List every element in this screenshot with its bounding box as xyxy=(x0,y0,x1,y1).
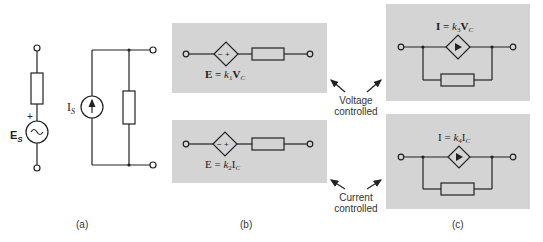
is-label: IS xyxy=(67,100,75,116)
arrow-right-icon xyxy=(367,180,381,189)
vccs-panel: I = k3VC xyxy=(386,4,530,101)
cccs-panel: I = k4IC xyxy=(386,114,530,209)
caption-b: (b) xyxy=(240,219,252,230)
svg-text:Current: Current xyxy=(339,192,373,203)
es-label: ES xyxy=(10,129,23,144)
current-source-circuit: IS xyxy=(67,47,156,168)
svg-text:− +: − + xyxy=(217,140,229,149)
svg-text:controlled: controlled xyxy=(334,106,377,117)
arrow-left-icon xyxy=(331,180,345,189)
arrow-left-icon xyxy=(331,80,345,92)
sine-wave-icon xyxy=(31,130,43,135)
voltage-controlled-annotation: Voltage controlled xyxy=(331,80,381,117)
arrow-right-icon xyxy=(367,80,381,92)
svg-text:Voltage: Voltage xyxy=(339,95,373,106)
voltage-source-circuit: + ES xyxy=(10,45,48,171)
vccs-equation: I = k3VC xyxy=(436,20,473,34)
terminal-top xyxy=(34,45,40,51)
current-controlled-annotation: Current controlled xyxy=(331,180,381,214)
terminal-bottom xyxy=(150,162,156,168)
caption-a: (a) xyxy=(76,219,88,230)
polarity-plus: + xyxy=(27,111,33,122)
terminal-top xyxy=(150,47,156,53)
ccvs-equation: E = k2IC xyxy=(205,158,241,172)
vcvs-panel: − + E = k1VC xyxy=(172,23,327,93)
svg-text:controlled: controlled xyxy=(334,203,377,214)
parallel-resistor xyxy=(123,91,135,124)
vcvs-equation: E = k1VC xyxy=(205,68,245,82)
circuit-diagram: + ES IS (a) − + E = k1VC xyxy=(0,0,543,242)
ccvs-panel: − + E = k2IC xyxy=(172,120,327,183)
terminal-bottom xyxy=(34,165,40,171)
series-resistor xyxy=(31,73,43,104)
caption-c: (c) xyxy=(452,219,464,230)
svg-text:− +: − + xyxy=(218,50,230,59)
